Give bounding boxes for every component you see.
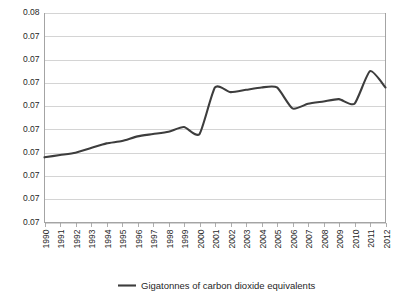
x-tick-label-1999: 1999 (180, 229, 190, 248)
x-tick-label-1997: 1997 (149, 229, 159, 248)
x-tick-label-2009: 2009 (335, 229, 345, 248)
y-tick-label-9: 0.07 (23, 217, 40, 227)
y-tick-label-2: 0.07 (23, 54, 40, 64)
legend-label: Gigatonnes of carbon dioxide equivalents (141, 280, 316, 291)
x-tick-label-2011: 2011 (366, 229, 376, 248)
y-tick-label-1: 0.07 (23, 31, 40, 41)
y-tick-label-3: 0.07 (23, 77, 40, 87)
legend: Gigatonnes of carbon dioxide equivalents (118, 280, 316, 291)
x-tick-label-2010: 2010 (351, 229, 361, 248)
x-tick-label-2004: 2004 (258, 229, 268, 248)
x-tick-label-1994: 1994 (103, 229, 113, 248)
x-tick-label-1998: 1998 (165, 229, 175, 248)
x-tick-label-2008: 2008 (320, 229, 330, 248)
y-tick-label-0: 0.08 (23, 7, 40, 17)
x-tick-label-2005: 2005 (273, 229, 283, 248)
y-tick-label-8: 0.07 (23, 193, 40, 203)
x-tick-label-2001: 2001 (211, 229, 221, 248)
x-tick-label-1992: 1992 (72, 229, 82, 248)
x-axis-tick-labels: 1990199119921993199419951996199719981999… (41, 229, 392, 248)
x-tick-label-2007: 2007 (304, 229, 314, 248)
y-tick-label-7: 0.07 (23, 170, 40, 180)
x-tick-label-2000: 2000 (196, 229, 206, 248)
x-tick-label-1995: 1995 (118, 229, 128, 248)
y-tick-label-6: 0.07 (23, 147, 40, 157)
x-tick-label-1991: 1991 (56, 229, 66, 248)
line-chart: 0.080.070.070.070.070.070.070.070.070.07… (0, 0, 405, 299)
chart-background (0, 0, 405, 299)
x-tick-label-1990: 1990 (41, 229, 51, 248)
x-tick-label-1993: 1993 (87, 229, 97, 248)
x-tick-label-2006: 2006 (289, 229, 299, 248)
x-tick-label-1996: 1996 (134, 229, 144, 248)
x-tick-label-2003: 2003 (242, 229, 252, 248)
x-tick-label-2012: 2012 (382, 229, 392, 248)
y-tick-label-5: 0.07 (23, 124, 40, 134)
chart-container: 0.080.070.070.070.070.070.070.070.070.07… (0, 0, 405, 299)
y-tick-label-4: 0.07 (23, 100, 40, 110)
x-tick-label-2002: 2002 (227, 229, 237, 248)
